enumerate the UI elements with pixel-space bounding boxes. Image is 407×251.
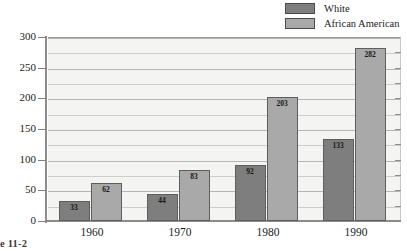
y-axis-label-wrap-0: 0 [0,215,36,226]
y-tick-right-200 [395,98,401,99]
bar-value-label: 62 [92,186,121,194]
y-tick-right-25 [395,206,401,207]
bar-african-american-1980[interactable]: 203 [267,97,298,222]
bar-african-american-1960[interactable]: 62 [91,183,122,221]
y-axis-label-wrap-300: 300 [0,31,36,42]
y-tick-right-75 [395,175,401,176]
bar-chart: 3362448392203133282 1960197019801990 300… [0,28,407,228]
y-tick-right-175 [395,114,401,115]
x-axis-label-1990: 1990 [312,226,400,239]
bar-white-1990[interactable]: 133 [323,139,354,221]
bar-value-label: 282 [356,51,385,59]
x-axis-label-1970: 1970 [136,226,224,239]
x-axis-label-1980: 1980 [224,226,312,239]
bars-layer: 3362448392203133282 [48,37,400,221]
y-axis-label-wrap-200: 200 [0,92,36,103]
bar-value-label: 33 [60,204,89,212]
y-axis-label-300: 300 [2,31,36,42]
y-tick-right-225 [395,83,401,84]
bar-value-label: 133 [324,142,353,150]
y-tick-right-250 [395,68,401,69]
y-axis-label-wrap-250: 250 [0,62,36,73]
bar-white-1980[interactable]: 92 [235,165,266,221]
y-axis-label-wrap-50: 50 [0,184,36,195]
bar-african-american-1970[interactable]: 83 [179,170,210,221]
y-tick-right-100 [395,160,401,161]
bar-african-american-1990[interactable]: 282 [355,48,386,221]
y-tick-right-275 [395,52,401,53]
bar-value-label: 83 [180,173,209,181]
bar-group-1970: 4483 [147,37,210,221]
bar-group-1960: 3362 [59,37,122,221]
figure-caption: e 11-2 [0,238,60,249]
x-axis-labels: 1960197019801990 [48,226,400,242]
y-tick-right-125 [395,144,401,145]
x-axis-label-1960: 1960 [48,226,136,239]
y-tick-150 [38,129,46,130]
bar-group-1980: 92203 [235,37,298,221]
y-axis-label-wrap-100: 100 [0,154,36,165]
legend-item-white: White [285,2,407,15]
y-tick-250 [38,68,46,69]
y-axis-label-0: 0 [2,215,36,226]
bar-value-label: 92 [236,168,265,176]
legend-swatch-white-icon [285,3,315,14]
y-tick-300 [38,37,46,38]
y-tick-200 [38,98,46,99]
bar-group-1990: 133282 [323,37,386,221]
y-axis-label-150: 150 [2,123,36,134]
bar-white-1960[interactable]: 33 [59,201,90,221]
bar-value-label: 203 [268,100,297,108]
y-axis-label-200: 200 [2,92,36,103]
bar-value-label: 44 [148,197,177,205]
y-tick-0 [38,221,46,222]
y-tick-right-50 [395,190,401,191]
bar-white-1970[interactable]: 44 [147,194,178,221]
y-axis-label-50: 50 [2,184,36,195]
legend-label-white: White [324,3,350,14]
y-axis-label-wrap-150: 150 [0,123,36,134]
y-tick-50 [38,190,46,191]
y-tick-right-150 [395,129,401,130]
y-axis-label-100: 100 [2,154,36,165]
y-axis-label-250: 250 [2,62,36,73]
y-tick-100 [38,160,46,161]
